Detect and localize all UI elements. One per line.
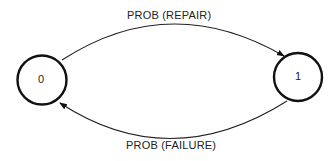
- state-diagram: [0, 0, 333, 161]
- node-1-label: 1: [295, 70, 301, 82]
- edge-repair-arrow: [62, 24, 284, 60]
- edge-failure-arrow: [60, 101, 287, 139]
- edge-failure-label: PROB (FAILURE): [126, 139, 216, 151]
- edge-repair-label: PROB (REPAIR): [127, 9, 211, 21]
- node-0-label: 0: [38, 73, 44, 85]
